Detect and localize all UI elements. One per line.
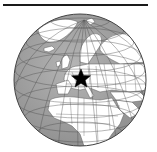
globe-map (0, 0, 157, 152)
